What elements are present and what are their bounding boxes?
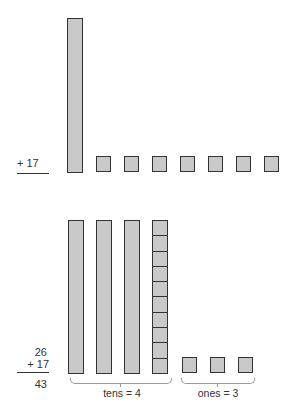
bottom-unit-cube <box>210 357 225 373</box>
rod-segment <box>153 252 167 267</box>
bottom-sum: 43 <box>17 378 47 390</box>
rod-segment <box>153 313 167 328</box>
top-unit-cube <box>124 156 139 172</box>
top-unit-cube <box>152 156 167 172</box>
top-unit-cube <box>96 156 111 172</box>
tens-brace <box>70 378 172 384</box>
bottom-addend-2: + 17 <box>17 358 49 370</box>
tens-label: tens = 4 <box>90 387 154 399</box>
rod-segment <box>153 343 167 358</box>
bottom-addend-1: 26 <box>17 346 47 358</box>
rod-segment <box>153 282 167 297</box>
top-sum-rule <box>17 173 49 174</box>
top-addend: + 17 <box>17 157 57 169</box>
rod-segment <box>153 236 167 251</box>
bottom-tens-rod <box>96 220 112 374</box>
bottom-unit-cube <box>182 357 197 373</box>
bottom-regrouped-tens-rod <box>152 220 168 374</box>
rod-segment <box>153 297 167 312</box>
top-unit-cube <box>208 156 223 172</box>
bottom-tens-rod <box>68 220 84 374</box>
rod-segment <box>153 267 167 282</box>
bottom-sum-rule <box>17 372 49 373</box>
bottom-tens-rod <box>124 220 140 374</box>
top-unit-cube <box>236 156 251 172</box>
rod-segment <box>153 221 167 236</box>
ones-label: ones = 3 <box>187 387 249 399</box>
bottom-unit-cube <box>238 357 253 373</box>
ones-brace <box>181 378 255 384</box>
rod-segment <box>153 328 167 343</box>
top-unit-cube <box>180 156 195 172</box>
top-tens-rod <box>67 18 83 173</box>
rod-segment <box>153 359 167 373</box>
top-unit-cube <box>264 156 279 172</box>
